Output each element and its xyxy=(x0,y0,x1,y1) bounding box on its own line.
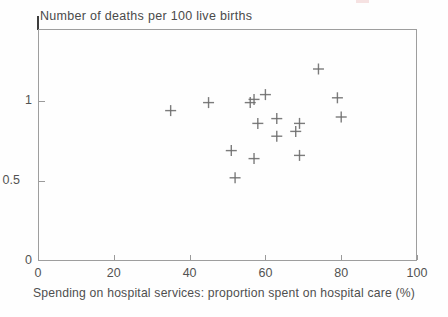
y-tick-label: 0.5 xyxy=(0,173,20,187)
x-tick-label: 80 xyxy=(321,266,361,280)
x-tick-label: 0 xyxy=(18,266,58,280)
y-tick xyxy=(39,101,45,102)
x-tick-label: 100 xyxy=(397,266,437,280)
y-tick-label: 1 xyxy=(2,93,32,107)
x-tick-label: 60 xyxy=(245,266,285,280)
y-tick-label: 0 xyxy=(2,253,32,267)
scan-artifact-smudge xyxy=(356,0,369,3)
x-tick xyxy=(417,255,418,260)
scatter-chart: Number of deaths per 100 live births 020… xyxy=(0,0,448,317)
x-tick xyxy=(38,255,39,260)
y-tick xyxy=(39,181,45,182)
x-tick xyxy=(265,255,266,260)
x-axis-label: Spending on hospital services: proportio… xyxy=(0,286,448,300)
plot-area xyxy=(38,29,417,261)
chart-title: Number of deaths per 100 live births xyxy=(40,9,252,23)
x-tick xyxy=(341,255,342,260)
x-tick xyxy=(190,255,191,260)
x-tick-label: 40 xyxy=(170,266,210,280)
x-tick-label: 20 xyxy=(94,266,134,280)
x-tick xyxy=(114,255,115,260)
scan-artifact-mark xyxy=(37,16,39,30)
